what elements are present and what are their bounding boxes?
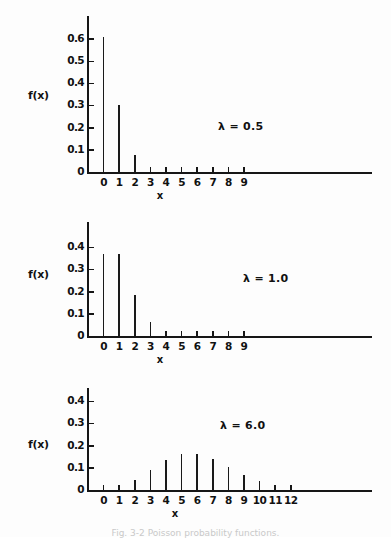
x-tick-mark xyxy=(103,485,105,490)
stem-bar xyxy=(118,487,120,490)
y-tick-label: 0.4 xyxy=(40,76,84,88)
stem-bar xyxy=(165,333,167,336)
y-tick-mark xyxy=(89,445,94,447)
lambda-annotation: λ = 6.0 xyxy=(220,419,265,432)
stem-bar xyxy=(134,480,136,490)
y-tick-label: 0.3 xyxy=(40,98,84,110)
x-axis-line xyxy=(87,490,372,492)
y-tick-mark xyxy=(89,83,94,85)
y-tick-mark xyxy=(89,313,94,315)
y-tick-label: 0 xyxy=(40,483,84,495)
x-axis-line xyxy=(87,172,372,174)
y-tick-mark xyxy=(89,149,94,151)
x-tick-label: 9 xyxy=(233,176,255,188)
stem-bar xyxy=(150,322,152,336)
stem-bar xyxy=(196,454,198,490)
y-tick-label: 0.2 xyxy=(40,121,84,133)
x-tick-mark xyxy=(165,167,167,172)
stem-bar xyxy=(290,488,292,490)
x-axis-label: x xyxy=(140,354,180,365)
x-tick-mark xyxy=(243,167,245,172)
lambda-annotation: λ = 1.0 xyxy=(243,272,288,285)
y-tick-label: 0 xyxy=(40,329,84,341)
stem-bar xyxy=(243,475,245,490)
x-tick-mark xyxy=(243,331,245,336)
y-tick-mark xyxy=(89,127,94,129)
y-tick-label: 0.1 xyxy=(40,461,84,473)
y-axis-line xyxy=(87,388,89,491)
lambda-annotation: λ = 0.5 xyxy=(218,120,263,133)
stem-bar xyxy=(118,254,120,336)
stem-bar xyxy=(228,467,230,490)
y-tick-mark xyxy=(89,61,94,63)
y-tick-mark xyxy=(89,38,94,40)
y-tick-mark xyxy=(89,291,94,293)
chart-panel-lambda-0-5: f(x) λ = 0.5 x 00.10.20.30.40.50.6012345… xyxy=(0,0,391,200)
y-tick-label: 0.4 xyxy=(40,240,84,252)
x-tick-mark xyxy=(228,167,230,172)
y-tick-label: 0.5 xyxy=(40,54,84,66)
x-axis-line xyxy=(87,336,372,338)
stem-bar xyxy=(165,460,167,490)
x-tick-mark xyxy=(212,331,214,336)
x-tick-mark xyxy=(181,167,183,172)
x-tick-mark xyxy=(196,331,198,336)
x-tick-label: 9 xyxy=(233,340,255,352)
stem-bar xyxy=(274,485,276,490)
stem-bar xyxy=(134,295,136,336)
stem-bar xyxy=(150,169,152,172)
y-tick-mark xyxy=(89,247,94,249)
y-tick-mark xyxy=(89,401,94,403)
y-tick-label: 0.1 xyxy=(40,307,84,319)
y-tick-label: 0.6 xyxy=(40,32,84,44)
stem-bar xyxy=(259,481,261,490)
stem-bar xyxy=(103,37,105,172)
x-tick-mark xyxy=(228,331,230,336)
y-tick-label: 0.2 xyxy=(40,285,84,297)
y-tick-mark xyxy=(89,269,94,271)
y-tick-label: 0.3 xyxy=(40,416,84,428)
y-tick-label: 0.1 xyxy=(40,143,84,155)
x-tick-mark xyxy=(212,167,214,172)
stem-bar xyxy=(150,470,152,490)
y-axis-line xyxy=(87,222,89,337)
y-tick-label: 0 xyxy=(40,165,84,177)
figure-caption: Fig. 3-2 Poisson probability functions. xyxy=(0,528,391,538)
y-tick-mark xyxy=(89,105,94,107)
stem-bar xyxy=(181,454,183,490)
stem-bar xyxy=(118,105,120,172)
chart-panel-lambda-6-0: f(x) λ = 6.0 x 00.10.20.30.4012345678910… xyxy=(0,380,391,537)
y-tick-mark xyxy=(89,467,94,469)
y-tick-mark xyxy=(89,423,94,425)
y-tick-label: 0.2 xyxy=(40,439,84,451)
x-tick-label: 12 xyxy=(280,494,302,506)
stem-bar xyxy=(134,155,136,172)
stem-bar xyxy=(103,254,105,336)
y-tick-label: 0.3 xyxy=(40,262,84,274)
chart-panel-lambda-1-0: f(x) λ = 1.0 x 00.10.20.30.40123456789 xyxy=(0,200,391,380)
y-tick-label: 0.4 xyxy=(40,394,84,406)
stem-bar xyxy=(181,335,183,336)
stem-bar xyxy=(212,459,214,490)
x-tick-mark xyxy=(196,167,198,172)
x-axis-label: x xyxy=(155,508,195,519)
